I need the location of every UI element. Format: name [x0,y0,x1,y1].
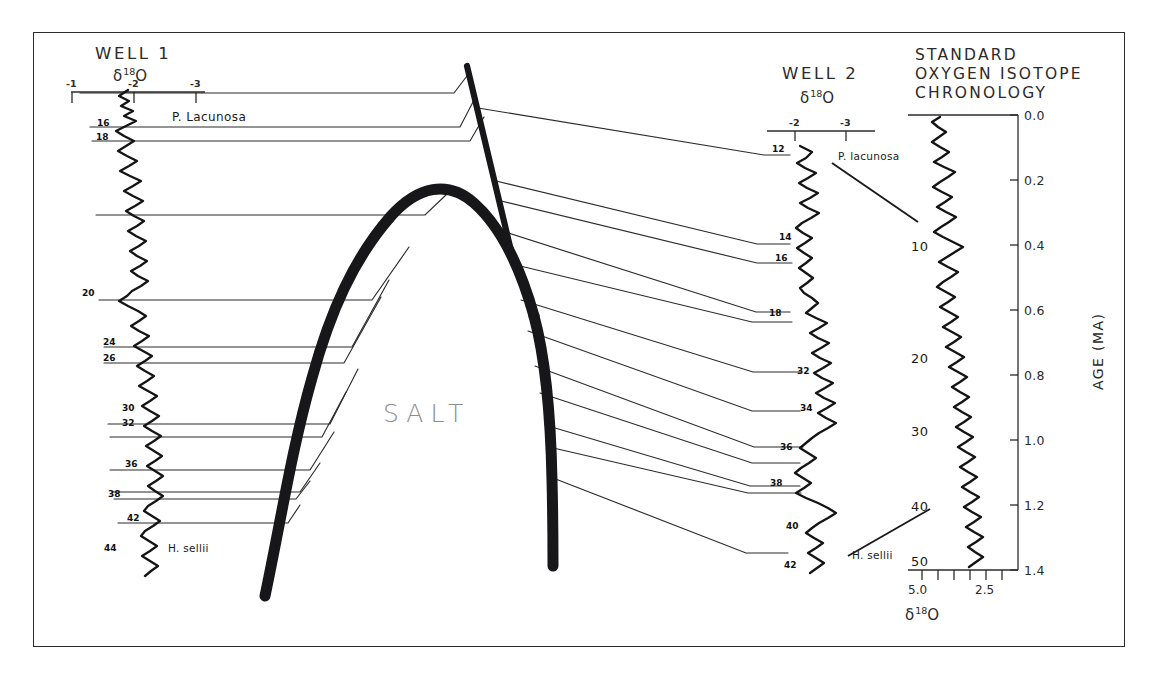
standard-title-line-2: OXYGEN ISOTOPE [915,65,1083,83]
well1-stage-18: 18 [96,132,109,142]
standard-bottom-tick-5-0: 5.0 [908,583,927,597]
well2-h-sellii-label: H. sellii [852,549,893,561]
standard-stage-40: 40 [911,499,929,514]
salt-label: SALT [383,399,470,428]
age-tick-0-4: 0.4 [1024,238,1045,253]
well1-stage-32: 32 [122,418,135,428]
standard-bottom-tick-2-5: 2.5 [975,583,994,597]
age-tick-1-2: 1.2 [1024,498,1045,513]
well2-title: WELL 2 [782,64,858,83]
well1-stage-20: 20 [82,288,95,298]
well1-tick--2: -2 [128,78,139,89]
well2-stage-14: 14 [779,232,792,242]
figure-border [33,32,1125,647]
well2-p-lacunosa-label: P. lacunosa [838,150,899,162]
well2-stage-16: 16 [775,253,788,263]
well1-tick--1: -1 [66,78,77,89]
well1-stage-30: 30 [122,403,135,413]
well1-stage-44: 44 [104,543,117,553]
well1-stage-16: 16 [97,118,110,128]
standard-stage-30: 30 [911,424,929,439]
well2-stage-34: 34 [800,403,813,413]
well2-stage-18: 18 [769,308,782,318]
well2-delta-label: δ18O [800,88,835,107]
well2-tick--2: -2 [789,117,800,128]
well1-stage-24: 24 [103,337,116,347]
standard-bottom-delta-label: δ18O [905,605,940,624]
well1-p-lacunosa-label: P. Lacunosa [172,110,246,124]
standard-title-line-3: CHRONOLOGY [915,84,1047,102]
well2-stage-12: 12 [772,144,785,154]
well2-stage-36: 36 [780,442,793,452]
age-tick-0-0: 0.0 [1024,108,1045,123]
age-axis-title: AGE (MA) [1090,313,1106,390]
stratigraphic-correlation-figure: WELL 1 δ18O -1 -2 -3 P. Lacunosa H. sell… [0,0,1158,680]
age-tick-1-4: 1.4 [1024,563,1045,578]
well1-stage-36: 36 [125,459,138,469]
age-tick-0-8: 0.8 [1024,368,1045,383]
well1-stage-38: 38 [108,489,121,499]
well1-title: WELL 1 [95,44,171,63]
age-tick-1-0: 1.0 [1024,433,1045,448]
well1-stage-42: 42 [127,513,140,523]
standard-stage-20: 20 [911,351,929,366]
age-tick-0-2: 0.2 [1024,173,1045,188]
well2-stage-38: 38 [770,478,783,488]
well1-stage-26: 26 [103,353,116,363]
standard-stage-50: 50 [911,554,929,569]
standard-title-line-1: STANDARD [915,46,1018,64]
well2-stage-42: 42 [784,560,797,570]
well2-tick--3: -3 [840,117,851,128]
age-tick-0-6: 0.6 [1024,303,1045,318]
well1-tick--3: -3 [190,78,201,89]
well1-h-sellii-label: H. sellii [168,542,209,554]
well2-stage-40: 40 [786,521,799,531]
standard-stage-10: 10 [911,239,929,254]
well2-stage-32: 32 [797,366,810,376]
